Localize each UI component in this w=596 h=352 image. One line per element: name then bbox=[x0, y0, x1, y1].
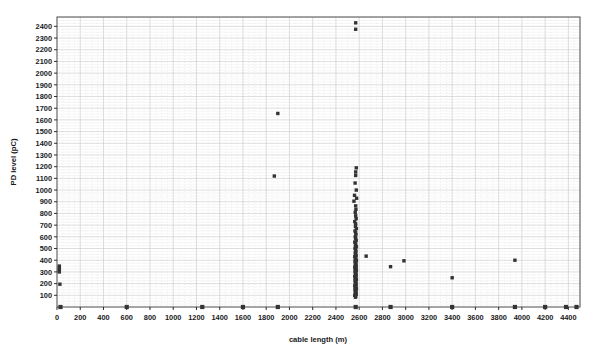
svg-text:1100: 1100 bbox=[36, 174, 52, 183]
data-point bbox=[450, 276, 453, 279]
svg-text:2400: 2400 bbox=[36, 22, 52, 31]
svg-text:1600: 1600 bbox=[235, 313, 251, 322]
data-point bbox=[354, 174, 357, 177]
svg-text:4400: 4400 bbox=[560, 313, 576, 322]
data-point bbox=[58, 270, 61, 273]
data-point bbox=[58, 282, 61, 285]
svg-text:2100: 2100 bbox=[36, 57, 52, 66]
svg-text:300: 300 bbox=[40, 268, 52, 277]
data-point bbox=[58, 305, 62, 309]
data-point bbox=[352, 199, 355, 202]
data-point bbox=[273, 174, 276, 177]
svg-text:600: 600 bbox=[121, 313, 133, 322]
svg-text:3400: 3400 bbox=[444, 313, 460, 322]
svg-text:1800: 1800 bbox=[36, 92, 52, 101]
data-point bbox=[276, 112, 279, 115]
svg-text:1200: 1200 bbox=[36, 162, 52, 171]
svg-text:0: 0 bbox=[55, 313, 59, 322]
svg-text:3000: 3000 bbox=[397, 313, 413, 322]
svg-text:2200: 2200 bbox=[36, 45, 52, 54]
data-point bbox=[364, 254, 367, 257]
svg-text:1900: 1900 bbox=[36, 81, 52, 90]
svg-text:700: 700 bbox=[40, 221, 52, 230]
svg-text:1000: 1000 bbox=[165, 313, 181, 322]
svg-text:2300: 2300 bbox=[36, 34, 52, 43]
svg-text:2800: 2800 bbox=[374, 313, 390, 322]
data-point bbox=[513, 305, 517, 309]
svg-text:100: 100 bbox=[40, 291, 52, 300]
data-point bbox=[402, 259, 405, 262]
data-point bbox=[354, 305, 358, 309]
svg-text:1800: 1800 bbox=[258, 313, 274, 322]
svg-text:2600: 2600 bbox=[351, 313, 367, 322]
svg-text:500: 500 bbox=[40, 244, 52, 253]
data-point bbox=[354, 208, 357, 211]
svg-text:1400: 1400 bbox=[36, 139, 52, 148]
data-point bbox=[354, 214, 357, 217]
svg-text:2400: 2400 bbox=[328, 313, 344, 322]
data-point bbox=[355, 166, 358, 169]
data-point bbox=[354, 204, 357, 207]
data-point bbox=[574, 305, 578, 309]
svg-text:1300: 1300 bbox=[36, 151, 52, 160]
data-point bbox=[450, 305, 454, 309]
svg-text:900: 900 bbox=[40, 197, 52, 206]
data-point bbox=[543, 305, 547, 309]
x-axis-title: cable length (m) bbox=[289, 335, 348, 344]
data-point bbox=[354, 211, 357, 214]
svg-text:4200: 4200 bbox=[537, 313, 553, 322]
svg-text:1600: 1600 bbox=[36, 116, 52, 125]
svg-text:200: 200 bbox=[74, 313, 86, 322]
svg-text:800: 800 bbox=[40, 209, 52, 218]
svg-text:4000: 4000 bbox=[514, 313, 530, 322]
data-point bbox=[354, 28, 357, 31]
data-point bbox=[200, 305, 204, 309]
data-point bbox=[564, 305, 568, 309]
data-point bbox=[355, 188, 358, 191]
svg-text:1000: 1000 bbox=[36, 186, 52, 195]
svg-text:1200: 1200 bbox=[188, 313, 204, 322]
svg-text:2000: 2000 bbox=[281, 313, 297, 322]
data-point bbox=[354, 170, 357, 173]
data-point bbox=[276, 305, 280, 309]
svg-text:400: 400 bbox=[97, 313, 109, 322]
data-point bbox=[354, 217, 357, 220]
svg-text:3800: 3800 bbox=[490, 313, 506, 322]
svg-text:2200: 2200 bbox=[304, 313, 320, 322]
data-point bbox=[241, 305, 245, 309]
svg-text:800: 800 bbox=[144, 313, 156, 322]
data-point bbox=[354, 295, 357, 298]
y-axis-title: PD level (pC) bbox=[9, 138, 18, 185]
data-point bbox=[389, 265, 392, 268]
data-point bbox=[125, 305, 129, 309]
data-point bbox=[353, 181, 356, 184]
svg-text:2000: 2000 bbox=[36, 69, 52, 78]
scatter-plot-canvas: 1002003004005006007008009001000110012001… bbox=[0, 0, 596, 352]
svg-text:1400: 1400 bbox=[211, 313, 227, 322]
svg-text:200: 200 bbox=[40, 279, 52, 288]
svg-text:400: 400 bbox=[40, 256, 52, 265]
svg-text:600: 600 bbox=[40, 233, 52, 242]
pd-level-scatter-figure: 1002003004005006007008009001000110012001… bbox=[0, 0, 596, 352]
svg-text:3600: 3600 bbox=[467, 313, 483, 322]
data-point bbox=[353, 194, 356, 197]
svg-text:1500: 1500 bbox=[36, 127, 52, 136]
data-point bbox=[513, 259, 516, 262]
data-point bbox=[354, 21, 357, 24]
data-point bbox=[355, 197, 358, 200]
svg-text:3200: 3200 bbox=[421, 313, 437, 322]
data-point bbox=[388, 305, 392, 309]
svg-text:1700: 1700 bbox=[36, 104, 52, 113]
